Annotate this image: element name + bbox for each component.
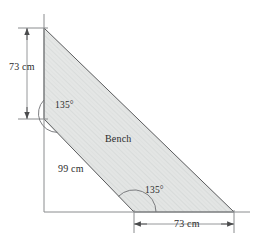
bench-shape — [44, 28, 234, 212]
slant-length-label: 99 cm — [58, 164, 84, 174]
upper-angle-label: 135° — [55, 101, 74, 111]
base-dimension-label: 73 cm — [174, 219, 200, 229]
bench-figure: 73 cm 135° Bench 99 cm 135° 73 cm — [0, 0, 265, 237]
figure-canvas — [0, 0, 265, 237]
lower-angle-label: 135° — [145, 186, 164, 196]
bench-label: Bench — [105, 134, 132, 144]
height-dimension-label: 73 cm — [9, 62, 35, 72]
